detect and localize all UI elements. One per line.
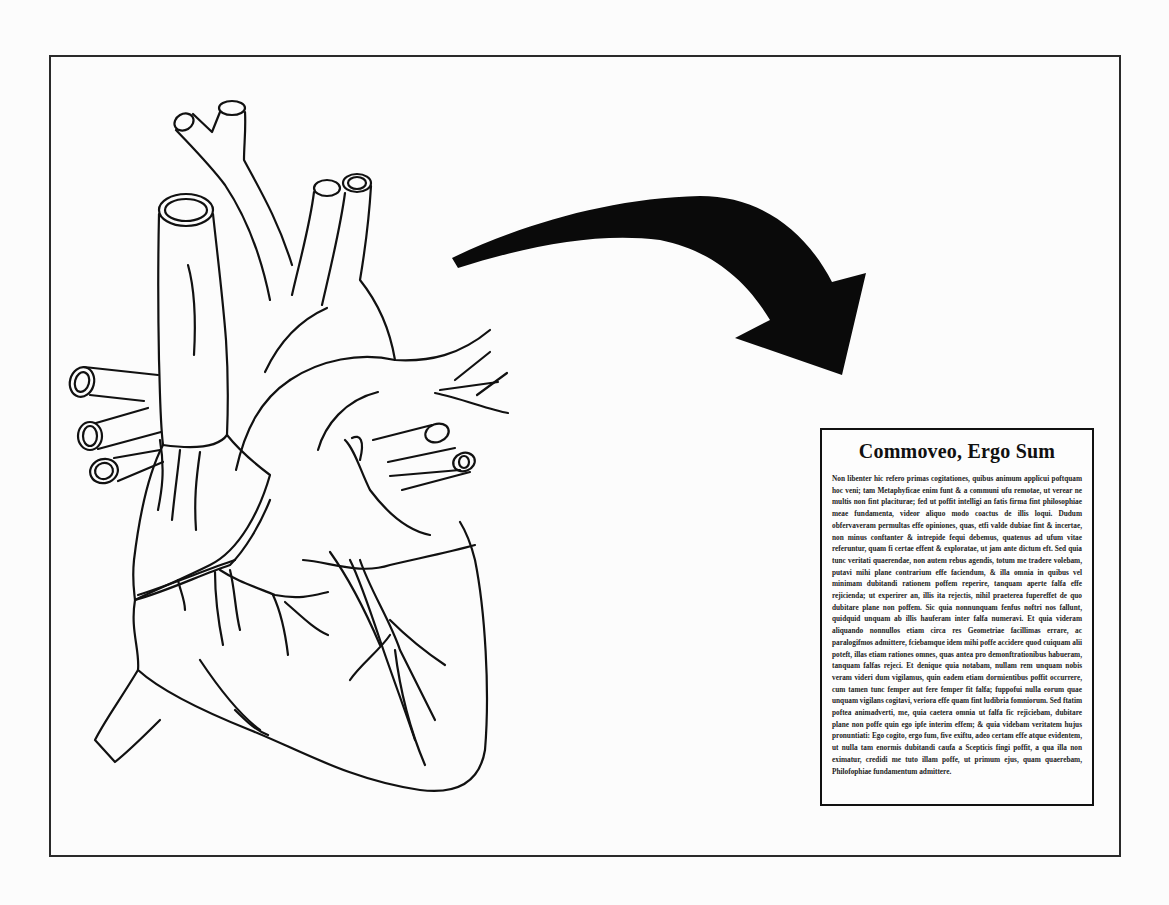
poster-text-box: Commoveo, Ergo Sum Non libenter hic refe… (820, 428, 1094, 806)
poster-body: Non libenter hic refero primas cogitatio… (832, 473, 1082, 777)
curved-arrow-icon (440, 180, 880, 390)
poster-title: Commoveo, Ergo Sum (832, 440, 1082, 463)
